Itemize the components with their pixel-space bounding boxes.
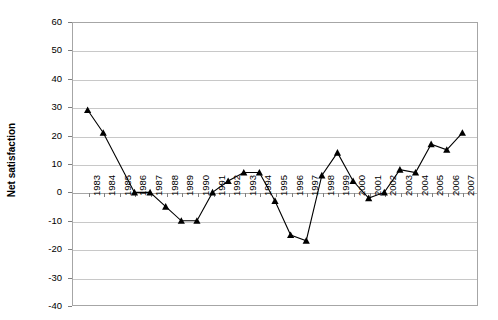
gridline--30 xyxy=(73,279,477,280)
y-axis-title: Net satisfaction xyxy=(0,0,22,320)
x-tick-mark xyxy=(417,193,418,197)
x-tick-label: 1993 xyxy=(248,175,258,196)
x-tick-label: 1992 xyxy=(232,175,242,196)
x-tick-label: 2006 xyxy=(451,175,461,196)
x-tick-label: 2007 xyxy=(466,175,476,196)
y-tick-label: 30 xyxy=(32,102,62,112)
x-tick-label: 2001 xyxy=(373,175,383,196)
y-tick-mark xyxy=(68,306,72,307)
y-tick-label: -10 xyxy=(32,216,62,226)
x-tick-label: 1997 xyxy=(310,175,320,196)
x-tick-label: 2005 xyxy=(435,175,445,196)
y-tick-label: 40 xyxy=(32,74,62,84)
x-tick-label: 1988 xyxy=(170,175,180,196)
y-tick-label: 0 xyxy=(32,187,62,197)
x-tick-label: 1985 xyxy=(123,175,133,196)
y-tick-label: 50 xyxy=(32,45,62,55)
gridline-40 xyxy=(73,80,477,81)
x-tick-mark xyxy=(401,193,402,197)
x-tick-label: 2000 xyxy=(357,175,367,196)
y-tick-label: 20 xyxy=(32,131,62,141)
x-tick-label: 1984 xyxy=(107,175,117,196)
gridline-50 xyxy=(73,51,477,52)
y-tick-label: -30 xyxy=(32,273,62,283)
plot-area xyxy=(72,22,478,306)
x-tick-mark xyxy=(323,193,324,197)
x-tick-mark xyxy=(151,193,152,197)
x-tick-mark xyxy=(354,193,355,197)
x-tick-label: 1994 xyxy=(263,175,273,196)
x-tick-label: 2004 xyxy=(420,175,430,196)
x-tick-mark xyxy=(198,193,199,197)
x-tick-label: 2002 xyxy=(388,175,398,196)
gridline-20 xyxy=(73,137,477,138)
x-tick-mark xyxy=(276,193,277,197)
x-tick-mark xyxy=(448,193,449,197)
x-tick-mark xyxy=(89,193,90,197)
x-tick-label: 1990 xyxy=(201,175,211,196)
x-tick-label: 1996 xyxy=(295,175,305,196)
x-tick-mark xyxy=(245,193,246,197)
x-tick-label: 1998 xyxy=(326,175,336,196)
y-tick-label: 10 xyxy=(32,159,62,169)
x-tick-mark xyxy=(370,193,371,197)
y-tick-label: -40 xyxy=(32,301,62,311)
gridline--20 xyxy=(73,250,477,251)
x-tick-mark xyxy=(432,193,433,197)
x-tick-label: 1983 xyxy=(92,175,102,196)
x-tick-label: 1991 xyxy=(217,175,227,196)
x-tick-label: 2003 xyxy=(404,175,414,196)
x-tick-mark xyxy=(120,193,121,197)
x-tick-label: 1999 xyxy=(341,175,351,196)
y-tick-label: -20 xyxy=(32,244,62,254)
x-tick-mark xyxy=(292,193,293,197)
gridline-10 xyxy=(73,165,477,166)
x-tick-mark xyxy=(214,193,215,197)
x-tick-mark xyxy=(229,193,230,197)
x-tick-mark xyxy=(167,193,168,197)
x-tick-label: 1986 xyxy=(138,175,148,196)
gridline--10 xyxy=(73,222,477,223)
y-tick-label: 60 xyxy=(32,17,62,27)
x-tick-label: 1987 xyxy=(154,175,164,196)
x-tick-label: 1989 xyxy=(185,175,195,196)
chart-container: Net satisfaction 6050403020100-10-20-30-… xyxy=(0,0,498,320)
x-tick-label: 1995 xyxy=(279,175,289,196)
gridline-30 xyxy=(73,108,477,109)
